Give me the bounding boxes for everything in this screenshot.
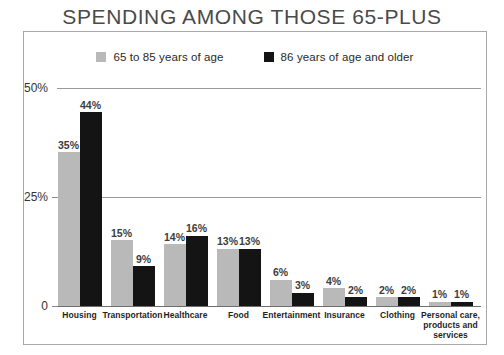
bar-pair: 35%44% xyxy=(58,112,102,306)
bar: 1% xyxy=(451,302,473,306)
bar-value-label: 9% xyxy=(136,254,151,265)
bar-value-label: 4% xyxy=(326,276,341,287)
bar-value-label: 1% xyxy=(432,289,447,300)
legend-swatch-icon-series-b xyxy=(264,52,274,62)
bar-value-label: 2% xyxy=(379,285,394,296)
bar-value-label: 2% xyxy=(401,285,416,296)
bar-pair: 2%2% xyxy=(376,297,420,306)
bar-group: 4%2%Insurance xyxy=(323,86,367,306)
legend-entry-86-and-older: 86 years of age and older xyxy=(264,51,414,63)
bar-group: 1%1%Personal care,products andservices xyxy=(429,86,473,306)
bar-pair: 15%9% xyxy=(111,240,155,306)
bar-value-label: 1% xyxy=(454,289,469,300)
bar-pair: 6%3% xyxy=(270,280,314,306)
bar-pair: 13%13% xyxy=(217,249,261,306)
bar-value-label: 13% xyxy=(239,236,260,247)
bar-value-label: 13% xyxy=(217,236,238,247)
bar: 3% xyxy=(292,293,314,306)
bar-group: 6%3%Entertainment xyxy=(270,86,314,306)
bar: 13% xyxy=(239,249,261,306)
bar-value-label: 14% xyxy=(164,232,185,243)
bar-value-label: 16% xyxy=(186,223,207,234)
bar-pair: 14%16% xyxy=(164,236,208,306)
bar: 6% xyxy=(270,280,292,306)
bar-pair: 1%1% xyxy=(429,302,473,306)
bar: 2% xyxy=(376,297,398,306)
bar: 35% xyxy=(58,152,80,306)
bar-value-label: 44% xyxy=(80,100,101,111)
bar-value-label: 2% xyxy=(348,285,363,296)
legend-label-series-a: 65 to 85 years of age xyxy=(113,51,223,63)
bar: 44% xyxy=(80,112,102,306)
bar-group: 35%44%Housing xyxy=(58,86,102,306)
bar: 1% xyxy=(429,302,451,306)
legend-entry-65-to-85: 65 to 85 years of age xyxy=(96,51,223,63)
bar: 2% xyxy=(398,297,420,306)
bar: 2% xyxy=(345,297,367,306)
bar: 4% xyxy=(323,288,345,306)
bar: 9% xyxy=(133,266,155,306)
spending-bar-chart: SPENDING AMONG THOSE 65-PLUS 65 to 85 ye… xyxy=(0,0,504,355)
bar: 16% xyxy=(186,236,208,306)
legend-label-series-b: 86 years of age and older xyxy=(281,51,414,63)
bar-group: 15%9%Transportation xyxy=(111,86,155,306)
y-axis-label-25: 25% xyxy=(24,191,48,203)
bar-group: 2%2%Clothing xyxy=(376,86,420,306)
chart-legend: 65 to 85 years of age 86 years of age an… xyxy=(23,47,487,67)
bar-value-label: 35% xyxy=(58,140,79,151)
bar: 15% xyxy=(111,240,133,306)
bar-groups-container: 35%44%Housing15%9%Transportation14%16%He… xyxy=(57,86,481,307)
chart-title: SPENDING AMONG THOSE 65-PLUS xyxy=(0,4,504,30)
legend-swatch-icon-series-a xyxy=(96,52,106,62)
bar-value-label: 3% xyxy=(295,280,310,291)
category-label: Personal care,products andservices xyxy=(408,310,494,340)
bar-value-label: 15% xyxy=(111,228,132,239)
plot-area: 50% 25% 0 35%44%Housing15%9%Transportati… xyxy=(57,86,481,307)
bar-pair: 4%2% xyxy=(323,288,367,306)
y-axis-label-50: 50% xyxy=(24,82,48,94)
bar: 13% xyxy=(217,249,239,306)
bar-value-label: 6% xyxy=(273,267,288,278)
bar-group: 14%16%Healthcare xyxy=(164,86,208,306)
bar: 14% xyxy=(164,244,186,306)
bar-group: 13%13%Food xyxy=(217,86,261,306)
